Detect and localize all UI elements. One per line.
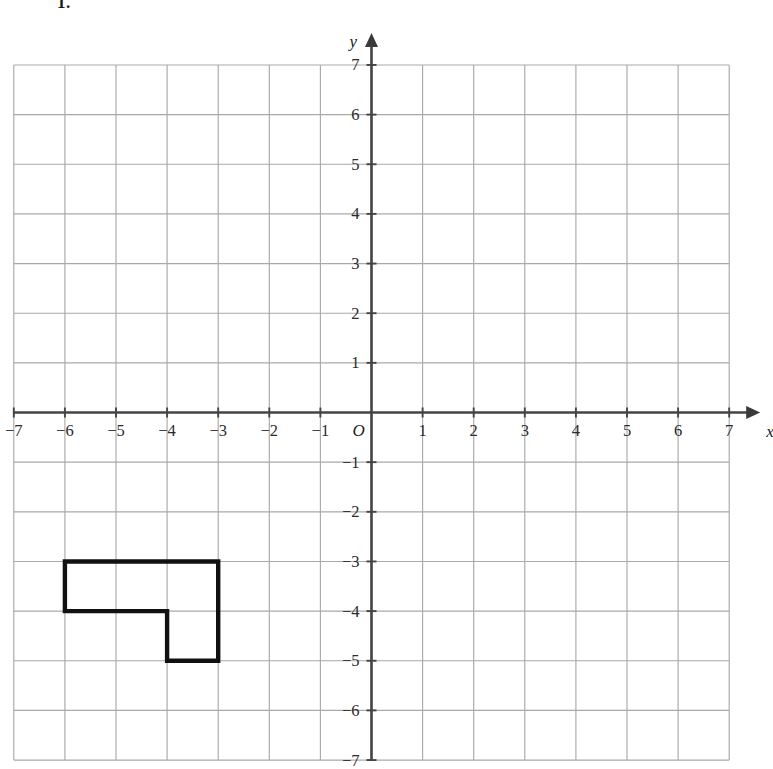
y-tick-label: 4 [351, 204, 359, 223]
x-axis-arrowhead [746, 406, 760, 419]
y-tick-label: −7 [342, 751, 360, 769]
y-tick-label: 7 [351, 55, 359, 74]
x-tick-label: −5 [107, 421, 125, 440]
coordinate-grid-figure: 1. −7−6−5−4−3−2−112345677654321−1−2−3−4−… [0, 0, 773, 769]
x-tick-label: 6 [674, 421, 682, 440]
y-tick-label: −1 [342, 453, 360, 472]
y-axis-label: y [348, 32, 358, 51]
y-tick-label: −4 [342, 602, 360, 621]
x-tick-label: 3 [521, 421, 529, 440]
x-tick-label: −7 [5, 421, 23, 440]
x-tick-label: −4 [158, 421, 176, 440]
coordinate-plane: −7−6−5−4−3−2−112345677654321−1−2−3−4−5−6… [0, 0, 773, 769]
y-tick-label: 2 [351, 304, 359, 323]
y-tick-label: 1 [351, 353, 359, 372]
y-axis-arrowhead [365, 33, 378, 47]
y-tick-label: 6 [351, 105, 359, 124]
x-tick-label: 5 [623, 421, 631, 440]
y-tick-label: −5 [342, 651, 360, 670]
x-tick-label: 1 [418, 421, 426, 440]
x-tick-label: −1 [312, 421, 330, 440]
y-tick-label: 3 [351, 254, 359, 273]
y-tick-label: −6 [342, 701, 360, 720]
y-tick-label: 5 [351, 155, 359, 174]
y-tick-label: −2 [342, 502, 360, 521]
axes [14, 33, 760, 760]
y-tick-label: −3 [342, 552, 360, 571]
x-axis-label: x [765, 422, 773, 441]
x-tick-label: −3 [209, 421, 227, 440]
origin-label: O [353, 421, 365, 440]
x-tick-label: 7 [725, 421, 733, 440]
x-tick-label: −6 [56, 421, 74, 440]
x-tick-label: −2 [261, 421, 279, 440]
x-tick-label: 4 [572, 421, 580, 440]
x-tick-label: 2 [470, 421, 478, 440]
